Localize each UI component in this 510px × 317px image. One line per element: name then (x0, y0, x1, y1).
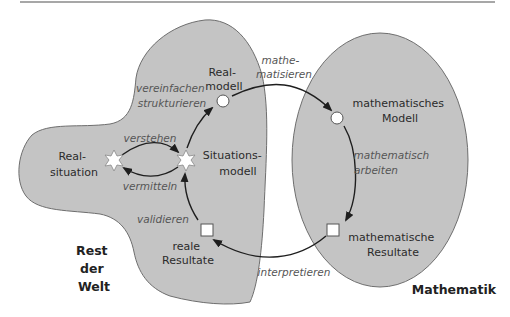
modelling-cycle-diagram: Real- situation Situations- modell Real-… (0, 0, 510, 317)
label-realmodell: Real- modell (205, 66, 242, 93)
label-verstehen: verstehen (124, 132, 177, 144)
circle-icon-realmodell (217, 95, 229, 107)
square-icon-mathematische-resultate (327, 224, 339, 236)
square-icon-reale-resultate (201, 224, 213, 236)
label-mathematik: Mathematik (412, 282, 497, 297)
label-validieren: validieren (137, 213, 189, 225)
label-mathematisieren: mathe- matisieren (256, 54, 312, 80)
label-rest-der-welt: Rest der Welt (76, 243, 112, 294)
circle-icon-mathematisches-modell (331, 112, 343, 124)
label-vermitteln: vermitteln (123, 180, 177, 192)
label-interpretieren: interpretieren (258, 266, 331, 278)
